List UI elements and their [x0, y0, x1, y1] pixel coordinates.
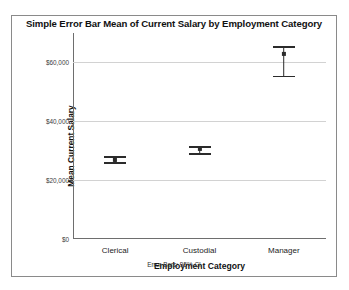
error-bar	[273, 33, 295, 239]
chart-title: Simple Error Bar Mean of Current Salary …	[12, 18, 336, 29]
error-bar	[104, 33, 126, 239]
mean-marker	[282, 52, 286, 56]
y-axis-spine	[73, 33, 74, 239]
mean-marker	[197, 147, 201, 151]
chart-card: Simple Error Bar Mean of Current Salary …	[11, 15, 337, 277]
y-tick-label: $20,000	[46, 177, 69, 184]
error-bar-cap-lower	[273, 76, 295, 78]
plot-area: $0$20,000$40,000$60,000 ClericalCustodia…	[73, 33, 326, 239]
error-bar-cap-lower	[189, 153, 211, 155]
error-bar-cap-upper	[273, 46, 295, 48]
error-bar	[189, 33, 211, 239]
x-tick-label: Custodial	[183, 246, 216, 255]
chart-footnote: Error Bars: 95% CI	[12, 261, 336, 268]
y-tick-label: $0	[62, 236, 69, 243]
x-tick-label: Clerical	[102, 246, 129, 255]
mean-marker	[113, 157, 117, 161]
y-tick-label: $40,000	[46, 118, 69, 125]
y-tick-label: $60,000	[46, 59, 69, 66]
x-tick-label: Manager	[268, 246, 300, 255]
error-bar-cap-lower	[104, 162, 126, 164]
